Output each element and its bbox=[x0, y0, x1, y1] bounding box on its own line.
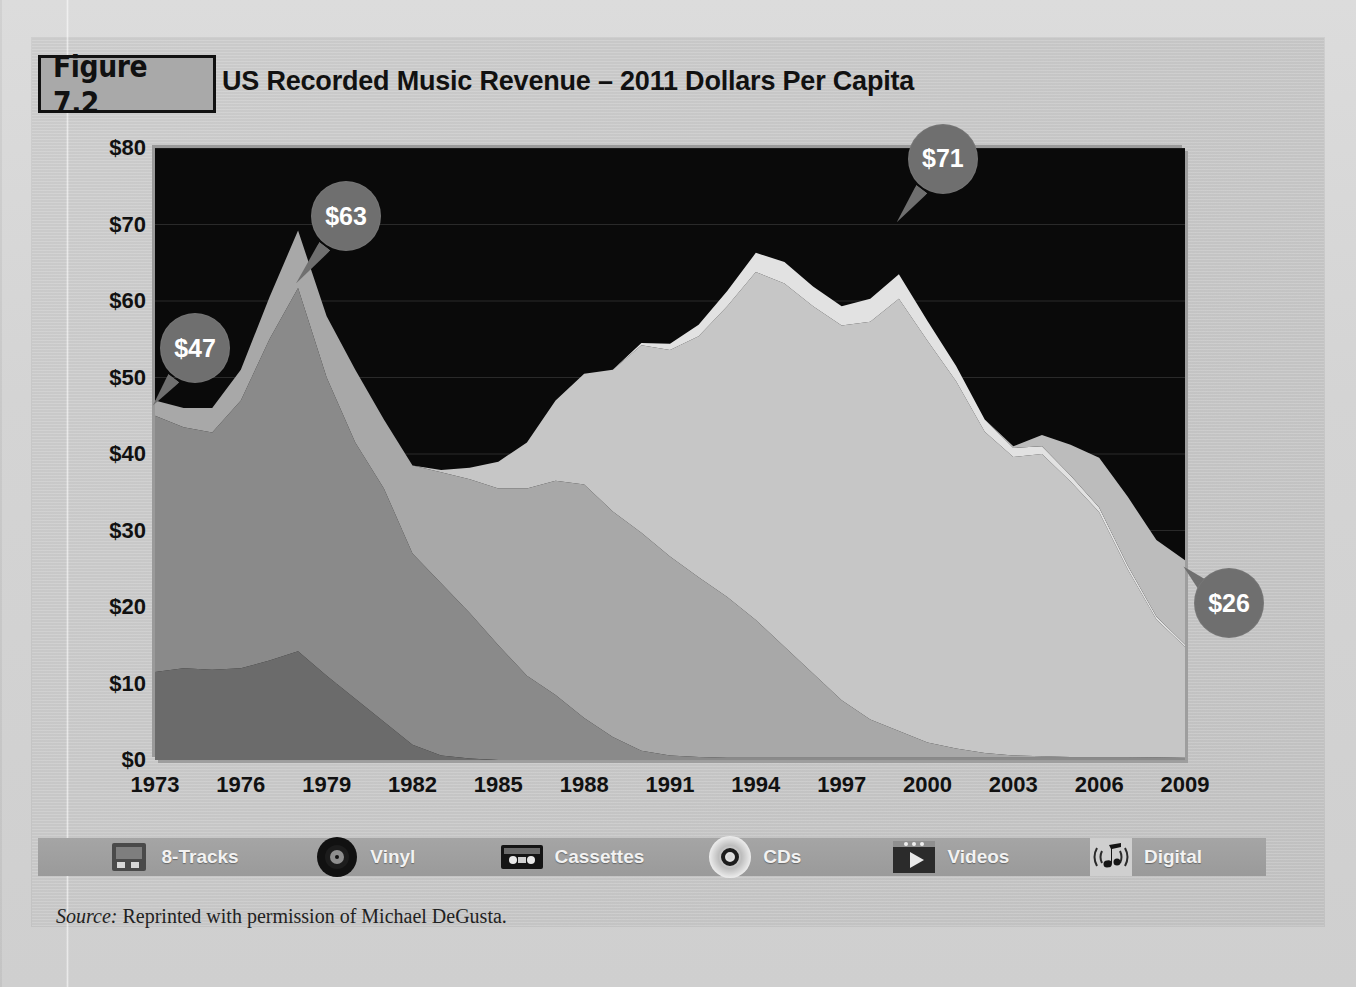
legend-item-digital: Digital bbox=[1088, 838, 1202, 876]
x-axis: 1973197619791982198519881991199419972000… bbox=[155, 772, 1185, 806]
x-axis-tick-label: 1982 bbox=[388, 772, 437, 798]
plot-canvas bbox=[155, 148, 1185, 760]
legend-item-label: Vinyl bbox=[370, 846, 415, 868]
y-axis-tick-label: $80 bbox=[72, 135, 146, 161]
y-axis-tick-label: $20 bbox=[72, 594, 146, 620]
page-title: US Recorded Music Revenue – 2011 Dollars… bbox=[222, 66, 914, 97]
x-axis-tick-label: 1997 bbox=[817, 772, 866, 798]
eight-track-cartridge-icon bbox=[106, 834, 152, 880]
digital-music-note-icon bbox=[1088, 834, 1134, 880]
legend-bar: 8-TracksVinylCassettesCDsVideosDigital bbox=[38, 838, 1266, 876]
legend-item-vinyl: Vinyl bbox=[314, 838, 415, 876]
legend-item-label: Cassettes bbox=[555, 846, 645, 868]
callout-value-label: $71 bbox=[922, 144, 964, 173]
callout-value-label: $26 bbox=[1208, 589, 1250, 618]
x-axis-tick-label: 1973 bbox=[131, 772, 180, 798]
legend-item-label: Videos bbox=[947, 846, 1009, 868]
callout-bubble: $63 bbox=[311, 181, 381, 251]
y-axis-tick-label: $70 bbox=[72, 212, 146, 238]
x-axis-tick-label: 2003 bbox=[989, 772, 1038, 798]
y-axis-tick-label: $50 bbox=[72, 365, 146, 391]
legend-item-videos: Videos bbox=[891, 838, 1009, 876]
vinyl-record-icon bbox=[314, 834, 360, 880]
x-axis-tick-label: 1976 bbox=[216, 772, 265, 798]
source-note: Source: Reprinted with permission of Mic… bbox=[56, 905, 507, 928]
x-axis-tick-label: 1985 bbox=[474, 772, 523, 798]
y-axis-tick-label: $60 bbox=[72, 288, 146, 314]
y-axis-tick-label: $10 bbox=[72, 671, 146, 697]
y-axis-tick-label: $40 bbox=[72, 441, 146, 467]
figure-number-label: Figure 7.2 bbox=[53, 48, 201, 120]
callout-bubble: $26 bbox=[1194, 568, 1264, 638]
x-axis-tick-label: 2000 bbox=[903, 772, 952, 798]
page-background: Figure 7.2 US Recorded Music Revenue – 2… bbox=[0, 0, 1356, 987]
source-text: Reprinted with permission of Michael DeG… bbox=[122, 905, 506, 927]
x-axis-tick-label: 2009 bbox=[1161, 772, 1210, 798]
callout-value-label: $47 bbox=[174, 334, 216, 363]
x-axis-tick-label: 1994 bbox=[731, 772, 780, 798]
callout-bubble: $71 bbox=[908, 124, 978, 194]
x-axis-tick-label: 1979 bbox=[302, 772, 351, 798]
y-axis: $0$10$20$30$40$50$60$70$80 bbox=[66, 148, 146, 760]
video-play-icon bbox=[891, 834, 937, 880]
y-axis-tick-label: $0 bbox=[72, 747, 146, 773]
x-axis-tick-label: 1991 bbox=[646, 772, 695, 798]
compact-disc-icon bbox=[707, 834, 753, 880]
callout-value-label: $63 bbox=[325, 202, 367, 231]
y-axis-tick-label: $30 bbox=[72, 518, 146, 544]
legend-item-cds: CDs bbox=[707, 838, 801, 876]
legend-item-label: Digital bbox=[1144, 846, 1202, 868]
stacked-area-chart bbox=[155, 148, 1185, 760]
legend-item-8-tracks: 8-Tracks bbox=[106, 838, 239, 876]
plot-area bbox=[155, 148, 1185, 760]
x-axis-tick-label: 2006 bbox=[1075, 772, 1124, 798]
legend-item-label: CDs bbox=[763, 846, 801, 868]
figure-number-badge: Figure 7.2 bbox=[38, 55, 216, 113]
cassette-tape-icon bbox=[499, 834, 545, 880]
legend-item-cassettes: Cassettes bbox=[499, 838, 645, 876]
callout-bubble: $47 bbox=[160, 313, 230, 383]
source-label: Source: bbox=[56, 905, 117, 927]
legend-item-label: 8-Tracks bbox=[162, 846, 239, 868]
x-axis-tick-label: 1988 bbox=[560, 772, 609, 798]
